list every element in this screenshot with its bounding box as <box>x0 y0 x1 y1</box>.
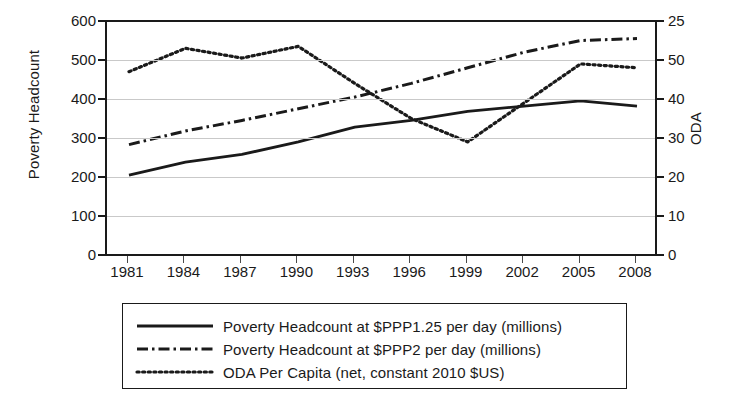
y-axis-left-tick-label: 0 <box>50 247 96 262</box>
legend-item[interactable]: Poverty Headcount at $PPP2 per day (mill… <box>137 337 541 361</box>
plot-border-bottom <box>105 254 657 256</box>
y-axis-left-tick-label: 300 <box>50 130 96 145</box>
chart-canvas: Poverty Headcount ODA 600500400300200100… <box>0 0 748 414</box>
legend-label: Poverty Headcount at $PPP2 per day (mill… <box>223 341 541 358</box>
y-axis-left-tick-mark <box>98 20 105 22</box>
x-axis-tick-label: 1984 <box>153 264 213 279</box>
x-axis-tick-mark <box>635 255 636 263</box>
y-axis-left-tick-label: 600 <box>50 13 96 28</box>
series-line-2 <box>129 39 637 145</box>
gridline <box>107 177 655 178</box>
y-axis-right-tick-label: 30 <box>668 130 714 145</box>
y-axis-right-tick-label: 10 <box>668 208 714 223</box>
y-axis-left-tick-mark <box>98 215 105 217</box>
legend-label: ODA Per Capita (net, constant 2010 $US) <box>223 364 505 381</box>
legend-swatch-dash-dot <box>137 342 213 356</box>
gridline <box>107 216 655 217</box>
legend: Poverty Headcount at $PPP1.25 per day (m… <box>122 303 627 389</box>
x-axis-tick-mark <box>183 255 184 263</box>
y-axis-left-tick-mark <box>98 137 105 139</box>
y-axis-left-tick-mark <box>98 254 105 256</box>
gridline <box>107 99 655 100</box>
x-axis-tick-mark <box>353 255 354 263</box>
y-axis-left-tick-label: 200 <box>50 169 96 184</box>
y-axis-left-tick-mark <box>98 176 105 178</box>
legend-swatch-dotted <box>137 365 213 379</box>
legend-item[interactable]: ODA Per Capita (net, constant 2010 $US) <box>137 360 505 384</box>
x-axis-tick-label: 2002 <box>492 264 552 279</box>
y-axis-left-tick-label: 100 <box>50 208 96 223</box>
x-axis-tick-label: 2008 <box>605 264 665 279</box>
x-axis-tick-label: 1999 <box>436 264 496 279</box>
plot-area <box>105 21 657 255</box>
x-axis-tick-mark <box>579 255 580 263</box>
y-axis-left-tick-label: 500 <box>50 52 96 67</box>
x-axis-tick-mark <box>522 255 523 263</box>
plot-border-top <box>105 20 657 22</box>
legend-item[interactable]: Poverty Headcount at $PPP1.25 per day (m… <box>137 314 562 338</box>
x-axis-tick-label: 1987 <box>210 264 270 279</box>
y-axis-left-tick-mark <box>98 59 105 61</box>
x-axis-tick-label: 1990 <box>266 264 326 279</box>
x-axis-tick-mark <box>466 255 467 263</box>
y-axis-right-tick-label: 50 <box>668 52 714 67</box>
y-axis-left-title: Poverty Headcount <box>25 20 42 210</box>
gridline <box>107 138 655 139</box>
y-axis-right-tick-label: 25 <box>668 13 714 28</box>
x-axis-tick-mark <box>240 255 241 263</box>
legend-swatch-solid <box>137 319 213 333</box>
y-axis-right-tick-label: 0 <box>668 247 714 262</box>
gridline <box>107 60 655 61</box>
x-axis-tick-mark <box>296 255 297 263</box>
x-axis-tick-mark <box>127 255 128 263</box>
y-axis-left-tick-mark <box>98 98 105 100</box>
x-axis-tick-mark <box>409 255 410 263</box>
x-axis-tick-label: 1996 <box>379 264 439 279</box>
y-axis-left-tick-label: 400 <box>50 91 96 106</box>
y-axis-right-tick-label: 40 <box>668 91 714 106</box>
legend-label: Poverty Headcount at $PPP1.25 per day (m… <box>223 318 562 335</box>
y-axis-right-tick-label: 20 <box>668 169 714 184</box>
x-axis-tick-label: 1981 <box>97 264 157 279</box>
x-axis-tick-label: 2005 <box>549 264 609 279</box>
x-axis-tick-label: 1993 <box>323 264 383 279</box>
